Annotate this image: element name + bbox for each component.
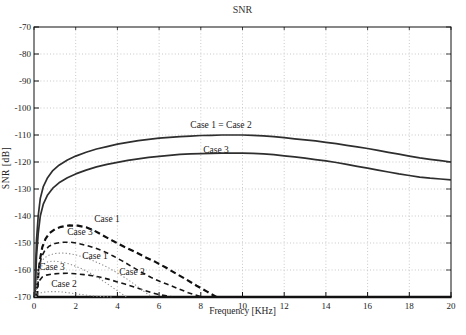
y-tick-label: -130	[15, 184, 32, 194]
y-tick-label: -90	[19, 76, 31, 86]
y-tick-label: -120	[15, 157, 32, 167]
curve-label-2: Case 1	[94, 214, 120, 224]
y-tick-label: -140	[15, 211, 32, 221]
y-tick-label: -160	[15, 265, 32, 275]
y-tick-label: -170	[15, 292, 32, 302]
curve-label-5: Case 3	[39, 262, 65, 272]
y-tick-label: -150	[15, 238, 32, 248]
curve-label-4: Case 1	[82, 251, 108, 261]
snr-figure: 02468101214161820-170-160-150-140-130-12…	[0, 0, 466, 335]
curve-label-1: Case 3	[203, 145, 229, 155]
y-tick-label: -110	[15, 130, 32, 140]
curve-label-3: Case 3	[67, 227, 93, 237]
curve-label-0: Case 1 = Case 2	[190, 120, 251, 130]
y-tick-label: -70	[19, 22, 31, 32]
chart-title: SNR	[34, 4, 451, 15]
curve-label-7: Case 2	[51, 279, 77, 289]
y-axis-label: SNR [dB]	[1, 136, 11, 200]
x-axis-label: Frequency [KHz]	[34, 306, 451, 316]
curve-label-6: Case 2	[119, 267, 145, 277]
y-tick-label: -80	[19, 49, 31, 59]
y-tick-label: -100	[15, 103, 32, 113]
